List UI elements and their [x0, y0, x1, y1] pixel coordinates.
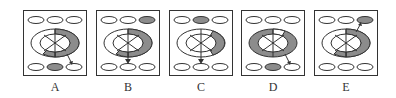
option-b	[96, 10, 160, 76]
label-e: E	[314, 80, 378, 95]
label-a: A	[23, 80, 87, 95]
option-a	[23, 10, 87, 76]
option-d	[241, 10, 305, 76]
figure-b-diagram	[96, 10, 160, 76]
label-b: B	[96, 80, 160, 95]
label-c: C	[169, 80, 233, 95]
figure-e-diagram	[314, 10, 378, 76]
figure-c-diagram	[169, 10, 233, 76]
option-c	[169, 10, 233, 76]
figure-d-diagram	[241, 10, 305, 76]
option-e	[314, 10, 378, 76]
label-d: D	[241, 80, 305, 95]
figure-a-diagram	[23, 10, 87, 76]
